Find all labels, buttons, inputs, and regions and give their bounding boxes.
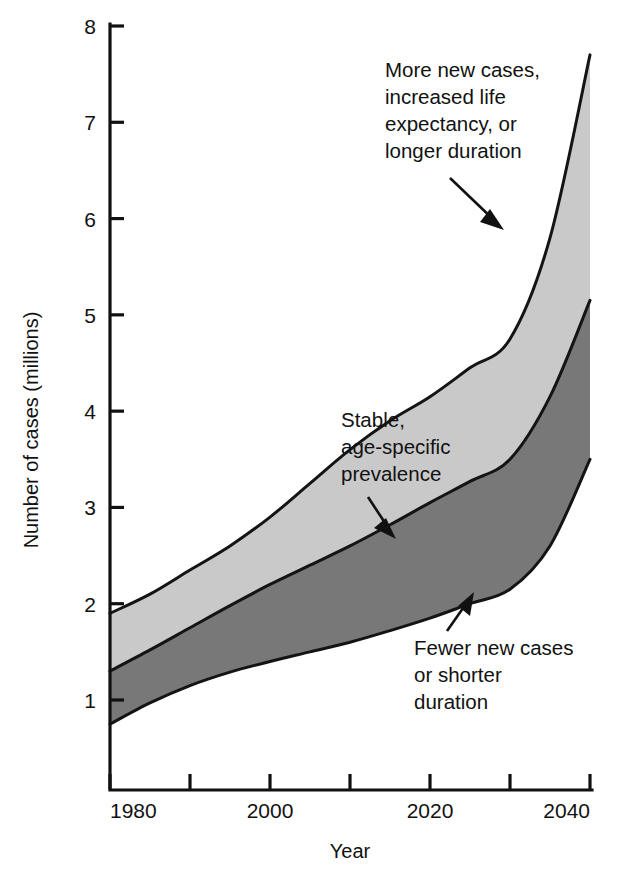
annotation-lower-line-3: duration <box>414 690 488 713</box>
y-axis-tick-label: 4 <box>84 400 96 423</box>
annotation-upper-line-2: increased life <box>385 85 506 108</box>
y-axis-tick-label: 3 <box>84 496 96 519</box>
annotation-upper-line-4: longer duration <box>385 139 522 162</box>
annotation-middle-line-1: Stable, <box>341 408 405 431</box>
x-axis-tick-label: 2000 <box>247 799 294 822</box>
y-axis-tick-label: 1 <box>84 689 96 712</box>
annotation-middle-line-3: prevalence <box>341 462 441 485</box>
chart-figure: 12345678 1980200020202040 Number of case… <box>0 0 617 872</box>
y-axis-tick-label: 6 <box>84 208 96 231</box>
annotation-middle-line-2: age-specific <box>341 435 450 458</box>
x-axis-tick-label: 2040 <box>543 799 590 822</box>
annotation-lower-line-2: or shorter <box>414 663 502 686</box>
y-axis-tick-label: 7 <box>84 111 96 134</box>
y-axis-tick-label: 2 <box>84 593 96 616</box>
x-axis-title: Year <box>330 840 371 862</box>
annotation-upper-line-1: More new cases, <box>385 58 540 81</box>
x-axis-tick-label: 1980 <box>110 799 157 822</box>
y-axis-tick-label: 8 <box>84 15 96 38</box>
annotation-upper-line-3: expectancy, or <box>385 112 517 135</box>
chart-svg: 12345678 1980200020202040 Number of case… <box>0 0 617 872</box>
annotation-lower-line-1: Fewer new cases <box>414 636 574 659</box>
x-axis-tick-label: 2020 <box>407 799 454 822</box>
y-axis-tick-label: 5 <box>84 304 96 327</box>
y-axis-title: Number of cases (millions) <box>20 312 42 549</box>
